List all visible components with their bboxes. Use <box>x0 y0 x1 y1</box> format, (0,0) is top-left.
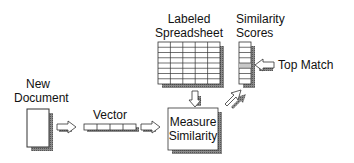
measure-similarity-label-line1: Measure <box>168 115 218 129</box>
labeled-spreadsheet-label: Labeled Spreadsheet <box>154 12 224 40</box>
arrow-diagonal-icon <box>225 90 246 109</box>
arrow-down-icon <box>189 91 201 107</box>
vector-cells <box>84 124 139 132</box>
vector-label: Vector <box>88 108 132 122</box>
labeled-spreadsheet-label-line2: Spreadsheet <box>154 26 224 40</box>
new-document-label: New Document <box>14 77 62 105</box>
spreadsheet-grid <box>158 42 224 88</box>
vector-label-text: Vector <box>93 108 127 122</box>
arrow-right-icon <box>57 121 76 133</box>
document-icon <box>27 109 53 151</box>
similarity-scores-label: Similarity Scores <box>236 12 285 40</box>
top-match-label-text: Top Match <box>278 58 333 72</box>
measure-similarity-label: Measure Similarity <box>168 115 218 143</box>
arrow-left-icon <box>255 59 274 71</box>
new-document-label-line1: New <box>14 77 62 91</box>
similarity-scores-column <box>239 42 255 88</box>
similarity-scores-label-line2: Scores <box>236 26 285 40</box>
measure-similarity-label-line2: Similarity <box>168 129 218 143</box>
top-match-label: Top Match <box>278 58 333 72</box>
new-document-label-line2: Document <box>14 91 62 105</box>
similarity-scores-label-line1: Similarity <box>236 12 285 26</box>
arrow-right-icon <box>141 121 160 133</box>
labeled-spreadsheet-label-line1: Labeled <box>154 12 224 26</box>
